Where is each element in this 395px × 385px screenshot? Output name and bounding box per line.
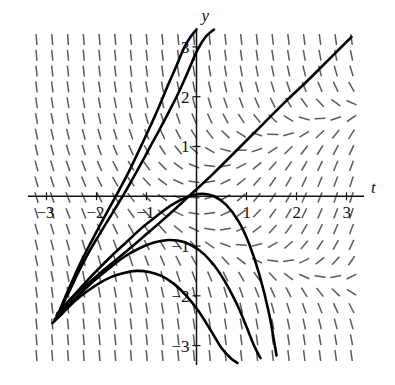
t-tick-label: 3 [343, 203, 352, 222]
slope-dash [52, 334, 53, 345]
slope-dash [146, 350, 147, 361]
slope-dash [115, 350, 116, 361]
y-axis-label: y [200, 6, 210, 25]
y-tick-label: 1 [181, 137, 190, 156]
slope-dash [146, 34, 147, 45]
y-tick-label: 3 [181, 38, 190, 57]
slope-dash [83, 350, 84, 361]
slope-field-figure: −3−2−1123321−1−2−3 t y [0, 0, 395, 385]
slope-dash [36, 350, 37, 361]
y-tick-label: −3 [171, 337, 189, 356]
slope-dash [83, 34, 84, 45]
slope-dash [36, 34, 37, 45]
y-tick-label: −1 [171, 237, 189, 256]
slope-dash [131, 34, 132, 45]
slope-dash [115, 34, 116, 45]
y-tick-label: 2 [181, 88, 190, 107]
slope-dash [83, 334, 84, 345]
slope-dash [131, 350, 132, 361]
y-tick-label: −2 [171, 287, 189, 306]
slope-dash [52, 350, 53, 361]
slope-dash [162, 350, 163, 361]
t-tick-label: −1 [136, 203, 154, 222]
t-tick-label: 2 [293, 203, 302, 222]
slope-dash [236, 245, 247, 246]
slope-dash [52, 34, 53, 45]
direction-field-plot: −3−2−1123321−1−2−3 t y [0, 0, 395, 385]
slope-dash [99, 350, 100, 361]
slope-dash [67, 50, 68, 61]
slope-dash [36, 334, 37, 345]
slope-dash [162, 34, 163, 45]
t-tick-label: 1 [243, 203, 252, 222]
slope-dash [83, 50, 84, 61]
slope-dash [68, 350, 69, 361]
slope-dash [99, 34, 100, 45]
slope-dash [68, 34, 69, 45]
slope-dash [36, 50, 37, 61]
slope-dash [178, 34, 179, 45]
t-tick-label: −3 [36, 203, 54, 222]
slope-dash [193, 350, 194, 361]
slope-dash [67, 334, 68, 345]
t-tick-label: −2 [86, 203, 104, 222]
slope-dash [52, 50, 53, 61]
